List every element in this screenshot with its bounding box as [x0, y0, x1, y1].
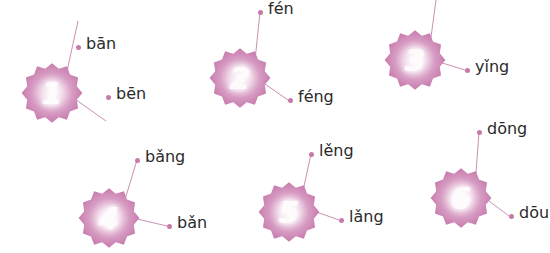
label-bang: bǎng [145, 149, 185, 165]
label-fen: fén [268, 1, 294, 17]
star-burst-icon-1 [21, 62, 83, 124]
badge-6: 6 [430, 167, 492, 229]
connector-dot-5a [309, 152, 314, 157]
worksheet-canvas: 1 bān bēn 2 [0, 0, 550, 253]
label-ban: bān [86, 36, 116, 52]
label-feng: féng [298, 89, 334, 105]
label-dong: dōng [487, 121, 527, 137]
star-burst-icon-6 [430, 167, 492, 229]
label-leng: lěng [319, 143, 354, 159]
label-ben: bēn [116, 86, 146, 102]
star-burst-icon-3 [384, 29, 446, 91]
connector-dot-4b [167, 224, 172, 229]
connector-dot-3b [465, 68, 470, 73]
connector-dot-5b [339, 218, 344, 223]
label-dou: dōu [519, 205, 549, 221]
label-lang: lǎng [349, 209, 384, 225]
label-ying: yǐng [475, 59, 509, 75]
connector-dot-1a [76, 45, 81, 50]
connector-dot-1b [106, 95, 111, 100]
connector-dot-6b [509, 214, 514, 219]
badge-1: 1 [21, 62, 83, 124]
connector-dot-2a [258, 10, 263, 15]
star-burst-icon-5 [258, 181, 320, 243]
badge-3: 3 [384, 29, 446, 91]
connector-dot-4a [135, 158, 140, 163]
star-burst-icon-2 [209, 47, 271, 109]
connector-dot-2b [288, 98, 293, 103]
badge-4: 4 [78, 187, 140, 249]
connector-dot-6a [477, 130, 482, 135]
label-ban-3rd: bǎn [177, 215, 207, 231]
badge-5: 5 [258, 181, 320, 243]
badge-2: 2 [209, 47, 271, 109]
star-burst-icon-4 [78, 187, 140, 249]
